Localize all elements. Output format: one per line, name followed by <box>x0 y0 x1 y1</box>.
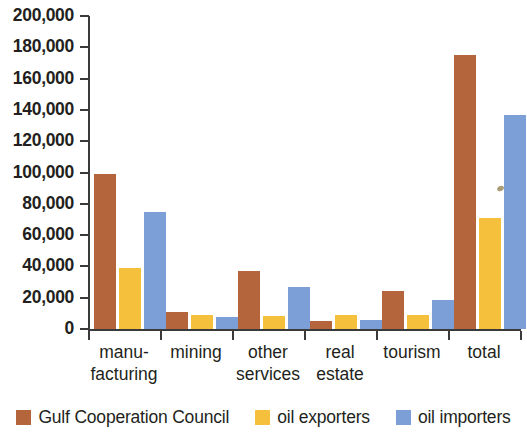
x-axis-tick-mark <box>448 331 450 340</box>
y-axis-tick-label: 200,000 <box>0 7 74 25</box>
x-axis-category-label: tourism <box>376 341 448 363</box>
x-axis-tick-mark <box>160 331 162 340</box>
bar <box>94 174 116 329</box>
y-axis-tick-label: 140,000 <box>0 101 74 119</box>
bar <box>119 268 141 329</box>
legend-swatch-icon <box>396 410 411 425</box>
x-axis-tick-mark <box>88 331 90 340</box>
bar-group <box>88 16 160 329</box>
y-axis-tick-label: 20,000 <box>0 289 74 307</box>
bar <box>238 271 260 329</box>
legend-label: oil exporters <box>277 407 370 428</box>
bar-group <box>376 16 448 329</box>
bar <box>504 115 526 329</box>
x-axis-category-label: real estate <box>304 341 376 385</box>
bar <box>382 291 404 329</box>
y-axis-tick-label: 0 <box>0 320 74 338</box>
x-axis-category-label: mining <box>160 341 232 363</box>
y-axis-tick-labels: 200,000180,000160,000140,000120,000100,0… <box>0 0 74 340</box>
y-axis-tick-label: 180,000 <box>0 39 74 57</box>
bar <box>310 321 332 329</box>
y-axis-tick-label: 120,000 <box>0 132 74 150</box>
y-axis-tick-label: 40,000 <box>0 258 74 276</box>
bar <box>191 315 213 329</box>
legend-entry: oil importers <box>396 407 511 428</box>
bar-group <box>232 16 304 329</box>
bar-group <box>160 16 232 329</box>
chart-legend: Gulf Cooperation Counciloil exportersoil… <box>0 404 527 430</box>
plot-area <box>88 16 520 329</box>
x-axis-tick-mark <box>520 331 522 340</box>
bar-group <box>448 16 520 329</box>
x-axis-tick-mark <box>232 331 234 340</box>
x-axis-tick-mark <box>376 331 378 340</box>
x-axis-category-label: total <box>448 341 520 363</box>
legend-label: oil importers <box>418 407 511 428</box>
legend-swatch-icon <box>16 410 31 425</box>
bar <box>407 315 429 329</box>
legend-entry: Gulf Cooperation Council <box>16 407 229 428</box>
bar <box>263 316 285 329</box>
bar-chart: 200,000180,000160,000140,000120,000100,0… <box>0 0 527 436</box>
y-axis-tick-label: 60,000 <box>0 226 74 244</box>
x-axis-category-label: manu- facturing <box>88 341 160 385</box>
bar <box>479 218 501 329</box>
legend-label: Gulf Cooperation Council <box>38 407 229 428</box>
y-axis-tick-label: 160,000 <box>0 70 74 88</box>
bar <box>454 55 476 329</box>
bar-group <box>304 16 376 329</box>
x-axis-category-labels: manu- facturingminingother servicesreal … <box>88 341 521 393</box>
y-axis-tick-label: 100,000 <box>0 164 74 182</box>
bar <box>335 315 357 329</box>
legend-entry: oil exporters <box>255 407 370 428</box>
bar <box>166 312 188 329</box>
x-axis-category-label: other services <box>232 341 304 385</box>
legend-swatch-icon <box>255 410 270 425</box>
x-axis-tick-mark <box>304 331 306 340</box>
y-axis-tick-label: 80,000 <box>0 195 74 213</box>
